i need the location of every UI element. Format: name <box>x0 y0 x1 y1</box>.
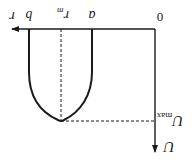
u-max-label: Umax <box>156 111 183 129</box>
a-label: a <box>89 8 96 23</box>
velocity-profile-diagram: 0 r b a rm Umax U <box>0 0 193 166</box>
u-axis-label: U <box>162 139 174 155</box>
origin-label: 0 <box>157 10 164 25</box>
r-axis-label: r <box>9 9 15 24</box>
diagram-canvas: 0 r b a rm Umax U <box>0 0 193 166</box>
r-m-label: rm <box>57 6 69 23</box>
b-label: b <box>26 8 33 23</box>
